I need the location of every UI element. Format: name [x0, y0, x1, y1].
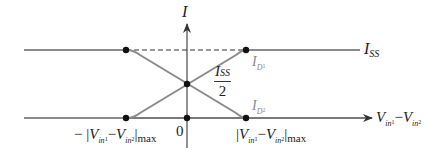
half-iss-numerator: ISS: [214, 63, 231, 82]
iss-sub: SS: [369, 48, 379, 59]
transfer-characteristic-diagram: I ISS ID1 ISS 2 ID2 Vin1−Vin2 0 − |Vin1−…: [0, 0, 425, 160]
id2-subsub: 2: [262, 107, 265, 113]
x-v1: V: [376, 109, 385, 125]
dot-neg-max-top: [123, 47, 129, 53]
neg-minus: −: [108, 126, 116, 142]
id2-curve: [24, 50, 246, 118]
neg-v2: V: [116, 126, 125, 142]
x-minus: −: [394, 109, 402, 125]
id1-curve: [24, 50, 360, 118]
dot-pos-max-bottom: [243, 115, 249, 121]
dot-origin: [184, 115, 190, 121]
iss-label: ISS: [364, 41, 379, 59]
id2-label: ID2: [252, 99, 265, 116]
half-iss-num-sub: SS: [220, 67, 230, 78]
pos-v2: V: [266, 126, 275, 142]
pos-max-text: max: [287, 132, 306, 144]
y-axis-label-text: I: [182, 3, 187, 20]
y-axis-label: I: [182, 4, 187, 20]
x-axis-label: Vin1−Vin2: [376, 110, 421, 128]
x-v2: V: [403, 109, 412, 125]
x-subsub2: 2: [418, 119, 421, 125]
pos-v1: V: [239, 126, 248, 142]
diagram-canvas: [0, 0, 425, 160]
half-iss-label: ISS 2: [214, 63, 231, 100]
dot-crossing: [184, 81, 190, 87]
dot-pos-max-top: [243, 47, 249, 53]
origin-label: 0: [176, 124, 184, 139]
neg-max-label: − |Vin1−Vin2|max: [74, 127, 156, 145]
id1-subsub: 1: [262, 63, 265, 69]
pos-minus: −: [257, 126, 265, 142]
neg-v1: V: [89, 126, 98, 142]
neg-max-text: max: [138, 132, 157, 144]
pos-max-label: |Vin1−Vin2|max: [236, 127, 306, 145]
half-iss-denominator: 2: [214, 82, 231, 100]
origin-text: 0: [176, 123, 184, 139]
dot-neg-max-bottom: [123, 115, 129, 121]
neg-prefix: − |: [74, 126, 89, 142]
id1-label: ID1: [252, 55, 265, 72]
